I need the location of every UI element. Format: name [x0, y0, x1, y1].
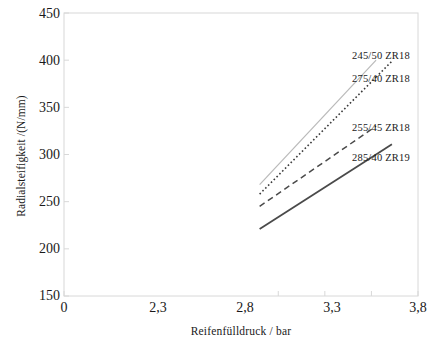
x-tick-label: 2,8: [225, 300, 265, 316]
chart-figure: 450 400 350 300 250 200 150 Radialsteifi…: [0, 0, 438, 349]
legend-label-255-45-zr18: 255/45 ZR18: [352, 122, 410, 134]
series-line-275-40-zr18: [260, 77, 376, 194]
legend-label-245-50-zr18: 245/50 ZR18: [352, 50, 410, 62]
series-lines: [260, 60, 392, 229]
x-axis-title: Reifenfülldruck / bar: [64, 325, 418, 337]
legend-label-285-40-zr19: 285/40 ZR19: [352, 152, 410, 164]
x-tick-label: 3,3: [312, 300, 352, 316]
x-tick-label: 0: [44, 300, 84, 316]
legend-label-275-40-zr18: 275/40 ZR18: [352, 73, 410, 85]
x-tick-label: 3,8: [398, 300, 438, 316]
x-tick-label: 2,3: [138, 300, 178, 316]
